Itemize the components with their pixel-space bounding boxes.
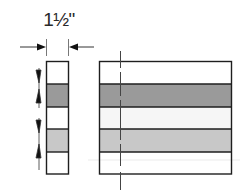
side-view-stack: [88, 61, 240, 174]
dimension-arrow-right-icon: [69, 44, 94, 51]
dimension-arrow-left-icon: [20, 44, 46, 51]
end-view-stack: [46, 61, 69, 174]
board-diagram: [0, 0, 250, 194]
clamp-arrows-icon: [36, 68, 41, 170]
